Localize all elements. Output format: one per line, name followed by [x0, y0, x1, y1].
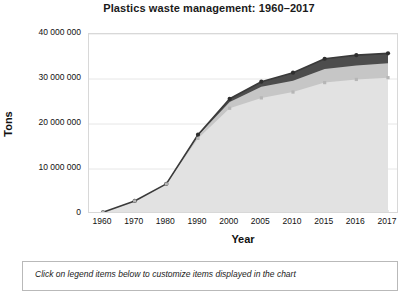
plot-area[interactable] [88, 33, 398, 213]
y-axis-title: Tons [2, 99, 14, 149]
x-tick-label: 1960 [93, 216, 112, 226]
x-tick-label: 2010 [283, 216, 302, 226]
x-tick-label: 1980 [156, 216, 175, 226]
legend-hint-box[interactable]: Click on legend items below to customize… [22, 261, 398, 291]
x-axis-tick-labels: 1960197019801990200020052010201520162017 [0, 216, 418, 232]
x-tick-label: 1990 [188, 216, 207, 226]
chart-plot-svg [89, 34, 398, 213]
x-axis-title: Year [88, 233, 398, 245]
y-tick-label: 10 000 000 [0, 163, 86, 172]
x-tick-label: 1970 [124, 216, 143, 226]
x-tick-label: 2017 [378, 216, 397, 226]
y-tick-label: 40 000 000 [0, 28, 86, 37]
x-tick-label: 2005 [251, 216, 270, 226]
stacked-areas [103, 53, 388, 213]
legend-hint-text: Click on legend items below to customize… [35, 269, 296, 279]
y-tick-label: 30 000 000 [0, 73, 86, 82]
x-tick-label: 2016 [346, 216, 365, 226]
x-tick-label: 2000 [219, 216, 238, 226]
x-tick-label: 2015 [314, 216, 333, 226]
